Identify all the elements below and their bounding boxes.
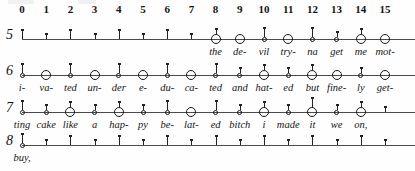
stem-cap: [384, 139, 387, 141]
stem-cap: [311, 64, 314, 66]
lyric-syllable: like: [63, 119, 78, 130]
lyric-syllable: fine-: [327, 82, 346, 93]
lyric-syllable: on,: [354, 119, 367, 130]
lyric-syllable: der: [112, 82, 126, 93]
lyric-syllable: de-: [233, 46, 246, 57]
lyric-syllable: un-: [88, 82, 102, 93]
lyric-syllable: py: [138, 119, 148, 130]
stem-cap: [166, 135, 169, 137]
lyric-syllable: me: [355, 46, 367, 57]
stem-cap: [69, 63, 72, 65]
big-notehead: [65, 107, 75, 117]
lyric-syllable: get: [330, 46, 343, 57]
small-notehead: [237, 73, 242, 78]
lyric-syllable: a: [92, 119, 97, 130]
small-notehead: [286, 73, 291, 78]
small-notehead: [358, 73, 363, 78]
big-notehead: [186, 107, 196, 117]
stem-cap: [118, 101, 121, 103]
stem-cap: [21, 63, 24, 65]
lyric-syllable: it: [309, 119, 315, 130]
lyric-syllable: the: [209, 46, 222, 57]
lyric-syllable: va-: [39, 82, 52, 93]
lyric-syllable: be-: [160, 119, 173, 130]
big-notehead: [380, 70, 390, 80]
stem-cap: [263, 64, 266, 66]
lyric-syllable: lat-: [184, 119, 199, 130]
big-notehead: [41, 70, 51, 80]
lyric-syllable: i-: [19, 82, 25, 93]
stem-cap: [287, 104, 290, 106]
stem-cap: [118, 135, 121, 137]
lyric-syllable: ed: [211, 119, 221, 130]
lyric-syllable: we: [331, 119, 343, 130]
stem-cap: [215, 100, 218, 102]
staff-line: [22, 145, 415, 146]
lyric-syllable: and: [232, 82, 248, 93]
small-notehead: [68, 73, 73, 78]
lyric-syllable: na: [307, 46, 318, 57]
lyric-syllable: ted: [64, 82, 77, 93]
stem-cap: [215, 135, 218, 137]
stem-cap: [45, 139, 48, 141]
stem-cap: [94, 139, 97, 141]
stem-cap: [166, 100, 169, 102]
stem-cap: [360, 135, 363, 137]
lyric-syllable: e-: [139, 82, 147, 93]
stem-cap: [336, 104, 339, 106]
big-notehead: [90, 70, 100, 80]
stem-cap: [215, 63, 218, 65]
stem-cap: [166, 63, 169, 65]
big-notehead: [138, 70, 148, 80]
big-notehead: [356, 107, 366, 117]
small-notehead: [213, 110, 218, 115]
stem-cap: [21, 133, 24, 135]
stem-cap: [360, 67, 363, 69]
lyric-syllable: i: [263, 119, 266, 130]
lyric-syllable: buy,: [13, 152, 30, 163]
stem-cap: [69, 101, 72, 103]
big-notehead: [307, 70, 317, 80]
lyric-syllable: ed: [283, 82, 293, 93]
small-notehead: [237, 110, 242, 115]
small-notehead: [286, 110, 291, 115]
lyric-syllable: hat-: [256, 82, 273, 93]
staff-row: 8buy,: [0, 0, 415, 40]
stem-cap: [360, 101, 363, 103]
small-notehead: [334, 110, 339, 115]
stem-cap: [190, 139, 193, 141]
lyric-syllable: ting: [14, 119, 30, 130]
stem-cap: [287, 67, 290, 69]
notation-figure: 0123456789101112131415 5thede-viltry-nag…: [0, 0, 415, 171]
small-notehead: [141, 110, 146, 115]
big-notehead: [186, 70, 196, 80]
lyric-syllable: try-: [281, 46, 296, 57]
small-notehead: [165, 73, 170, 78]
big-notehead: [114, 107, 124, 117]
lyric-syllable: made: [277, 119, 300, 130]
lyric-syllable: but: [306, 82, 319, 93]
stem-cap: [239, 139, 242, 141]
lyric-syllable: get-: [377, 82, 393, 93]
stem-cap: [45, 104, 48, 106]
stem-cap: [142, 139, 145, 141]
stem-cap: [21, 100, 24, 102]
stem-cap: [239, 67, 242, 69]
small-notehead: [20, 73, 25, 78]
small-notehead: [20, 110, 25, 115]
stem-cap: [118, 63, 121, 65]
stem-cap: [69, 135, 72, 137]
small-notehead: [20, 143, 25, 148]
stem-cap: [311, 135, 314, 137]
stem-cap: [94, 104, 97, 106]
staff-row-label: 8: [6, 134, 13, 148]
stem-cap: [142, 104, 145, 106]
lyric-syllable: hap-: [109, 119, 128, 130]
lyric-syllable: ted: [209, 82, 222, 93]
lyric-syllable: ly: [357, 82, 365, 93]
stem-cap: [336, 139, 339, 141]
stem-cap: [239, 104, 242, 106]
big-notehead: [332, 70, 342, 80]
big-notehead: [259, 107, 269, 117]
stem-cap: [287, 139, 290, 141]
